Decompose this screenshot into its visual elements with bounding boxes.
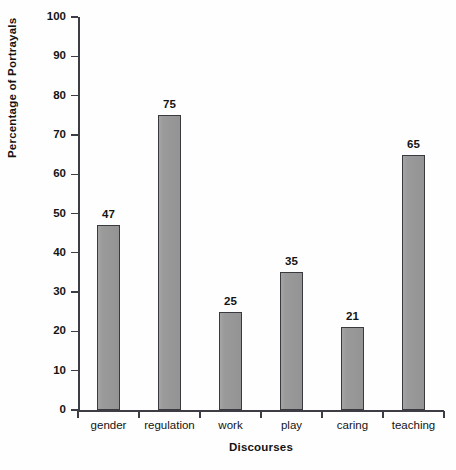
y-axis-title: Percentage of Portrayals (6, 0, 18, 158)
y-axis-tick-label: 90 (40, 50, 66, 62)
y-axis-tick-label: 50 (40, 208, 66, 220)
x-axis-label-caring: caring (322, 419, 383, 432)
y-axis-line (78, 17, 80, 411)
x-axis-title: Discourses (78, 441, 444, 453)
y-axis-tick-label: 30 (40, 286, 66, 298)
x-axis-tick (443, 411, 444, 418)
x-axis-label-play: play (261, 419, 322, 432)
y-axis-tick (71, 95, 78, 96)
y-axis-tick-label: 100 (40, 11, 66, 23)
x-axis-tick (138, 411, 139, 418)
y-axis-tick (71, 56, 78, 57)
x-axis-tick (382, 411, 383, 418)
y-axis-tick (71, 331, 78, 332)
x-axis-label-teaching: teaching (383, 419, 444, 432)
x-axis-tick (260, 411, 261, 418)
bar-teaching (402, 155, 426, 410)
y-axis-tick (71, 174, 78, 175)
y-axis-tick (71, 213, 78, 214)
x-axis-label-gender: gender (78, 419, 139, 432)
y-axis-tick-label: 60 (40, 168, 66, 180)
y-axis-tick-label: 40 (40, 247, 66, 259)
y-axis-tick (71, 252, 78, 253)
bar-play (280, 272, 304, 410)
bar-value-label-work: 25 (207, 296, 255, 308)
bar-value-label-regulation: 75 (146, 99, 194, 111)
y-axis-tick-label: 70 (40, 129, 66, 141)
bar-chart: Percentage of Portrayals 100908070605040… (0, 0, 456, 470)
y-axis-tick (71, 291, 78, 292)
y-axis-tick-label: 20 (40, 325, 66, 337)
y-axis-tick (71, 16, 78, 17)
x-axis-label-work: work (200, 419, 261, 432)
x-axis-tick (321, 411, 322, 418)
x-axis-label-regulation: regulation (139, 419, 200, 432)
x-axis-tick (199, 411, 200, 418)
bar-regulation (158, 115, 182, 410)
bar-work (219, 312, 243, 410)
bar-gender (97, 225, 121, 410)
bar-value-label-gender: 47 (85, 209, 133, 221)
y-axis-tick (71, 370, 78, 371)
bar-value-label-play: 35 (268, 256, 316, 268)
bar-value-label-caring: 21 (329, 311, 377, 323)
y-axis-tick-label: 10 (40, 365, 66, 377)
bar-value-label-teaching: 65 (390, 139, 438, 151)
y-axis-tick-label: 80 (40, 90, 66, 102)
x-axis-tick (77, 411, 78, 418)
y-axis-tick-label: 0 (40, 404, 66, 416)
y-axis-tick (71, 134, 78, 135)
bar-caring (341, 327, 365, 410)
